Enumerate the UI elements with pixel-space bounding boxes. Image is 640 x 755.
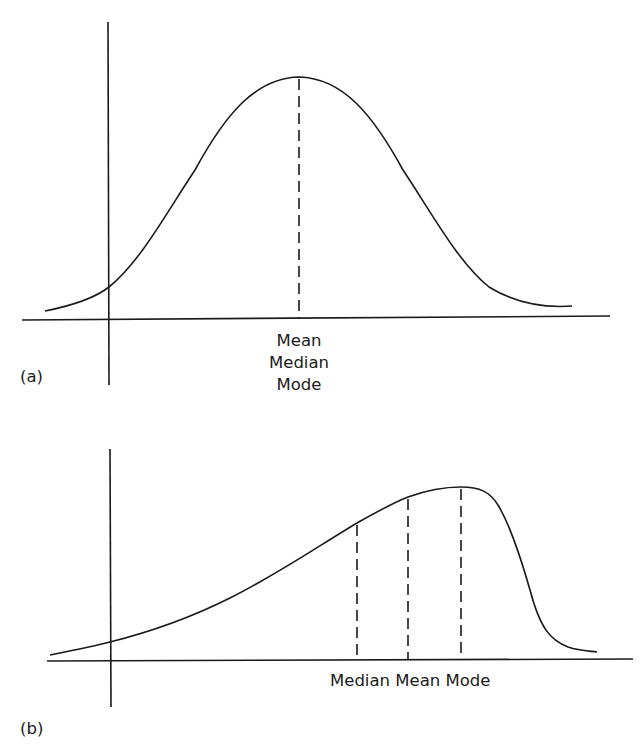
panel-a-caption: (a) [20, 366, 43, 388]
panel-a-median-label: Median [269, 352, 329, 374]
panel-b-median-label: Median [330, 671, 390, 690]
panel-a-x-axis [22, 316, 610, 320]
panel-a-mean-label: Mean [269, 330, 329, 352]
panel-b-mean-label: Mean [395, 671, 440, 690]
panel-b [47, 449, 633, 707]
panel-a-mode-label: Mode [269, 374, 329, 396]
panel-a-symmetric-curve [45, 77, 572, 311]
panel-b-skewed-curve [50, 487, 597, 655]
panel-b-x-axis [47, 659, 633, 661]
panel-b-marker-labels: Median Mean Mode [330, 670, 490, 692]
panel-b-y-axis [110, 449, 111, 707]
panel-a-center-labels: Mean Median Mode [269, 330, 329, 396]
panel-a-y-axis [108, 22, 109, 385]
panel-b-caption: (b) [20, 718, 43, 740]
panel-b-mode-label: Mode [445, 671, 490, 690]
